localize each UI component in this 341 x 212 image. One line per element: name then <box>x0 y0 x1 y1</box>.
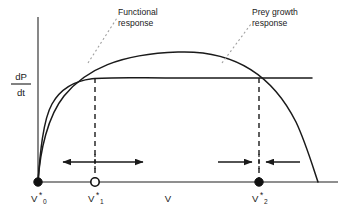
annotation-prey-growth-response: Prey growth response <box>252 7 298 28</box>
tick-label-v0: V * 0 <box>31 191 47 205</box>
drop-lines-group <box>95 78 259 182</box>
y-axis-numerator: dP <box>15 71 27 82</box>
axes-group <box>38 17 338 182</box>
leader-functional-response <box>88 18 117 63</box>
v1-subscript: 1 <box>100 198 104 205</box>
figure-canvas: dP dt <box>0 0 341 212</box>
flow-arrows-group <box>63 154 300 170</box>
functional-response-curve <box>38 78 312 182</box>
prey-growth-response-line2: response <box>252 18 288 28</box>
functional-response-line1: Functional <box>118 7 158 17</box>
functional-response-line2: response <box>118 18 154 28</box>
v2-subscript: 2 <box>264 198 268 205</box>
v0-label: V <box>31 193 38 204</box>
y-axis-denominator: dt <box>17 87 25 98</box>
tick-label-v1: V * 1 <box>88 191 104 205</box>
v0-subscript: 0 <box>43 198 47 205</box>
marker-v1-unstable <box>91 178 99 186</box>
predator-prey-equilibrium-figure: dP dt <box>0 0 341 212</box>
leader-lines-group <box>88 18 251 63</box>
y-axis-label: dP dt <box>11 71 31 98</box>
tick-label-v2: V * 2 <box>252 191 268 205</box>
marker-v2-stable <box>255 178 263 186</box>
annotation-functional-response: Functional response <box>118 7 158 28</box>
marker-v0-stable <box>34 178 42 186</box>
prey-growth-response-line1: Prey growth <box>252 7 298 17</box>
leader-prey-growth-response <box>222 24 251 63</box>
v2-label: V <box>252 193 259 204</box>
x-axis-label: V <box>165 193 172 204</box>
v1-label: V <box>88 193 95 204</box>
